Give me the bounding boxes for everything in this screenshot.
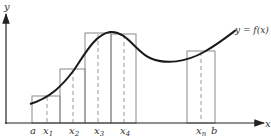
tick-label-x4: x4 xyxy=(120,125,130,138)
rectangle-1 xyxy=(32,96,60,123)
tick-label-b: b xyxy=(211,125,217,136)
tick-label-x3: x3 xyxy=(94,125,105,138)
riemann-sum-figure: y x y = f(x) a x1 x2 x3 x4 xn b xyxy=(0,0,271,140)
function-curve xyxy=(30,30,236,104)
tick-label-x1: x1 xyxy=(43,125,53,138)
tick-labels: a x1 x2 x3 x4 xn b xyxy=(30,125,217,138)
curve-label: y = f(x) xyxy=(234,25,269,35)
sample-point-lines xyxy=(47,34,201,123)
y-axis-label: y xyxy=(3,1,10,12)
x-axis-label: x xyxy=(265,118,271,129)
tick-label-x2: x2 xyxy=(69,125,80,138)
tick-label-xn: xn xyxy=(196,125,207,138)
tick-label-a: a xyxy=(30,125,36,136)
